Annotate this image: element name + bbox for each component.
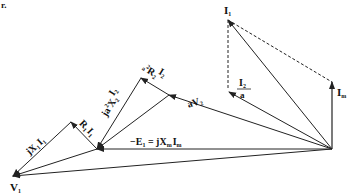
svg-text:−E1 = jXmIm: −E1 = jXmIm [130,136,182,148]
v1-phasor [13,149,332,176]
a2r2-drop [141,78,169,95]
corner-mark: r. [1,0,6,10]
svg-text:Im: Im [337,86,346,99]
label-i2-over-a: I2 a [237,77,251,100]
dashed-i2a-parallel [228,20,332,82]
phasor-diagram: r. I1 Im I2 a aV2 a2R2I2 ja2X2I2 R1I1 jX… [0,0,348,196]
label-ja2x2-i2a: ja2X2I2 [94,86,124,120]
svg-text:R1I1: R1I1 [77,117,98,138]
svg-text:ja2X2I2: ja2X2I2 [94,86,124,120]
label-i1: I1 [224,4,231,17]
jx1i1-drop [13,122,71,176]
svg-text:I2: I2 [239,77,246,89]
label-r1i1: R1I1 [77,117,98,138]
label-im: Im [337,86,346,99]
label-av2: aV2 [186,94,204,110]
svg-text:aV2: aV2 [186,94,204,110]
label-e1: −E1 = jXmIm [130,136,182,148]
svg-text:V1: V1 [10,181,21,194]
label-v1: V1 [10,181,21,194]
svg-text:a: a [240,90,245,100]
svg-text:I1: I1 [224,4,231,17]
